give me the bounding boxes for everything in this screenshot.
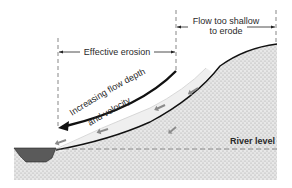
flow-too-shallow-label-line2: to erode <box>209 26 242 36</box>
effective-erosion-label: Effective erosion <box>84 47 150 57</box>
hillslope-erosion-diagram: Effective erosion Flow too shallow to er… <box>0 0 292 188</box>
flow-too-shallow-label-line1: Flow too shallow <box>193 16 260 26</box>
river-level-label: River level <box>230 136 275 146</box>
flow-arrow-icon <box>54 137 67 147</box>
main-arrow-head-icon <box>58 121 69 131</box>
